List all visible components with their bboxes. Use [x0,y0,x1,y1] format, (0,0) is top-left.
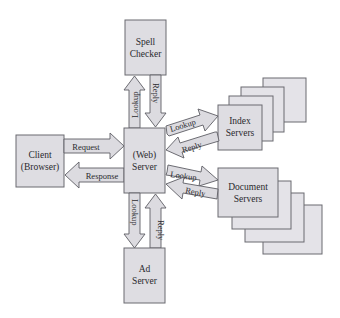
web-server-label-1: (Web) [133,150,157,161]
response-label: Response [86,171,119,181]
spell-reply-label: Reply [151,83,161,104]
document-servers-stack: Document Servers [218,168,322,254]
spell-checker-node: Spell Checker [125,20,166,75]
index-reply-arrow: Reply [166,132,219,158]
client-label-1: Client [28,150,52,160]
ad-server-label-2: Server [132,276,158,286]
spell-checker-label-1: Spell [136,37,156,47]
spell-lookup-arrow: Lookup [124,76,145,128]
client-box [16,135,64,187]
request-label: Request [72,142,100,152]
ad-lookup-arrow: Lookup [124,193,145,248]
index-servers-stack: Index Servers [218,78,306,150]
web-server-box [124,128,165,193]
ad-server-node: Ad Server [124,248,165,303]
document-servers-label-2: Servers [234,194,263,204]
ad-reply-label: Reply [156,220,166,241]
architecture-diagram: Index Servers Document Servers Spell Che… [0,0,340,318]
request-arrow: Request [64,133,124,159]
client-label-2: (Browser) [21,162,60,173]
client-node: Client (Browser) [16,135,64,187]
ad-reply-arrow: Reply [145,194,166,248]
index-servers-label-1: Index [229,116,251,126]
ad-server-label-1: Ad [139,264,151,274]
spell-checker-box [125,20,166,75]
spell-lookup-label: Lookup [130,92,140,118]
document-servers-label-1: Document [228,182,268,192]
response-arrow: Response [65,162,124,188]
ad-lookup-label: Lookup [130,199,140,225]
spell-checker-label-2: Checker [130,49,162,59]
web-server-label-2: Server [132,162,158,172]
spell-reply-arrow: Reply [145,75,166,127]
index-servers-label-2: Servers [226,128,255,138]
index-lookup-arrow: Lookup [166,109,218,136]
document-servers-box [218,168,278,217]
web-server-node: (Web) Server [124,128,165,193]
